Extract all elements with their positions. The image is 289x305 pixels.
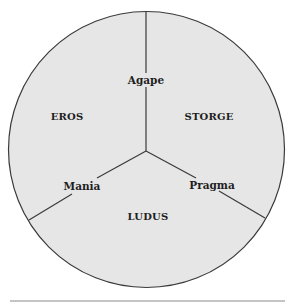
boundary-label-mania: Mania: [64, 180, 101, 192]
boundary-label-agape: Agape: [127, 74, 165, 86]
boundary-label-pragma: Pragma: [189, 179, 235, 191]
region-label-ludus: LUDUS: [128, 211, 169, 222]
region-label-storge: STORGE: [184, 111, 233, 122]
love-styles-diagram: EROS STORGE LUDUS Agape Mania Pragma: [0, 0, 289, 305]
region-label-eros: EROS: [51, 111, 84, 122]
